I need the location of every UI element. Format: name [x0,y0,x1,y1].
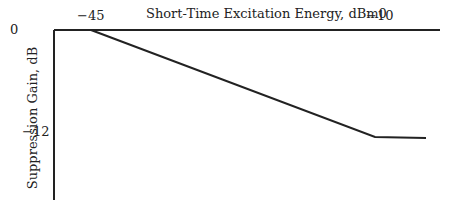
x-axis-label: Short-Time Excitation Energy, dBm0 [146,6,387,21]
y-tick-0: 0 [10,22,18,37]
x-tick-minus-10: −10 [366,8,393,23]
x-tick-minus-45: −45 [77,8,104,23]
y-axis-label: Suppression Gain, dB [25,47,40,189]
gain-curve [91,30,426,138]
plot-area [0,0,452,210]
